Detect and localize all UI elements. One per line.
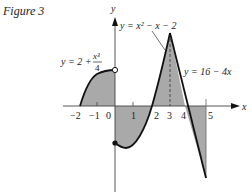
- tick-label-1: 1: [131, 110, 136, 121]
- tick-label-0: 0: [106, 110, 111, 121]
- equation-cubic-lhs: y = 2 +: [60, 56, 91, 67]
- open-endpoint-marker: [112, 67, 117, 72]
- leader-line: [152, 31, 165, 50]
- shaded-region-cubic: [80, 70, 115, 106]
- y-axis-label: y: [110, 3, 116, 14]
- tick-label-m1: −1: [89, 110, 100, 121]
- x-axis-arrow-icon: [231, 103, 240, 109]
- y-axis-arrow-icon: [112, 17, 118, 26]
- piecewise-function-plot: y x −2 −1 0 1 2 3 4 5 y = 2 + x³ 4 y = x…: [0, 0, 252, 192]
- tick-label-4: 4: [181, 110, 186, 121]
- closed-endpoint-marker: [112, 140, 117, 145]
- equation-line: y = 16 − 4x: [183, 66, 232, 77]
- equation-parabola: y = x² − x − 2: [119, 20, 177, 31]
- equation-cubic-denominator: 4: [95, 63, 100, 73]
- tick-label-3: 3: [167, 110, 172, 121]
- equation-cubic-numerator: x³: [92, 51, 100, 61]
- x-axis-label: x: [241, 101, 247, 112]
- tick-label-5: 5: [208, 110, 213, 121]
- shaded-region-peak: [152, 33, 185, 106]
- tick-label-m2: −2: [70, 110, 81, 121]
- tick-label-2: 2: [154, 110, 159, 121]
